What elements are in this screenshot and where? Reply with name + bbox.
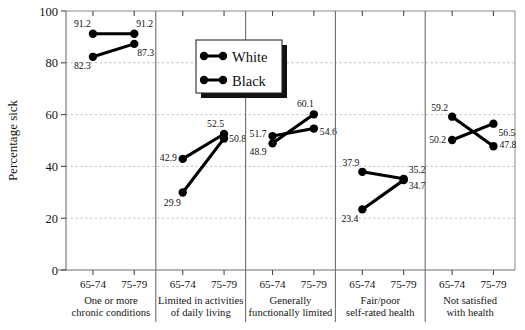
y-tick-label-100: 100 <box>39 5 58 19</box>
series-line-white-3 <box>362 172 403 179</box>
series-line-black-0 <box>93 44 134 57</box>
x-tick-label-3-1: 75-79 <box>391 278 418 290</box>
data-label-white-3-1: 35.2 <box>409 164 426 175</box>
data-label-white-1-0: 42.9 <box>160 152 177 163</box>
y-tick-label-60: 60 <box>46 108 59 122</box>
data-label-black-3-1: 34.7 <box>409 180 426 191</box>
series-point-black-1-0 <box>179 188 187 196</box>
legend: WhiteBlack <box>196 40 287 98</box>
legend-label-white: White <box>232 49 267 65</box>
data-label-white-2-1: 54.6 <box>320 126 337 137</box>
x-tick-label-0-0: 65-74 <box>80 278 107 290</box>
data-label-black-1-1: 50.8 <box>229 133 246 144</box>
panel-self-rated-health: 65-7475-79Fair/poorself-rated health37.9… <box>335 11 425 322</box>
series-point-white-3-0 <box>358 168 366 176</box>
series-point-white-0-1 <box>130 30 138 38</box>
x-tick-label-2-0: 65-74 <box>259 278 286 290</box>
panel-caption-line1-2: Generally <box>270 295 312 306</box>
data-label-black-2-1: 60.1 <box>297 98 314 109</box>
y-axis-ticks: 020406080100 <box>39 5 66 278</box>
panel-caption-line2-3: self-rated health <box>346 307 415 318</box>
series-line-black-3 <box>362 180 403 209</box>
legend-swatch-dot-left-0 <box>200 52 208 60</box>
series-point-black-3-0 <box>358 205 366 213</box>
panel-caption-line1-0: One or more <box>84 295 138 306</box>
y-tick-label-0: 0 <box>52 264 58 278</box>
x-tick-label-1-0: 65-74 <box>170 278 197 290</box>
data-label-black-2-0: 48.9 <box>250 146 267 157</box>
series-point-black-2-0 <box>268 139 276 147</box>
series-point-white-4-1 <box>489 142 497 150</box>
series-point-black-2-1 <box>310 110 318 118</box>
data-label-white-4-0: 59.2 <box>431 102 448 113</box>
multipanel-line-chart: 020406080100Percentage sick65-7475-79One… <box>0 0 525 330</box>
y-tick-label-20: 20 <box>46 212 59 226</box>
legend-swatch-dot-left-1 <box>200 76 208 84</box>
y-axis-title: Percentage sick <box>5 99 20 181</box>
data-label-black-4-0: 50.2 <box>429 134 446 145</box>
y-tick-label-40: 40 <box>46 160 59 174</box>
panel-caption-line1-1: Limited in activities <box>158 295 243 306</box>
data-label-black-3-0: 23.4 <box>341 213 358 224</box>
data-label-black-0-0: 82.3 <box>74 60 91 71</box>
series-line-black-4 <box>452 124 493 140</box>
data-label-white-0-0: 91.2 <box>74 18 91 29</box>
panel-caption-line1-4: Not satisfied <box>443 295 498 306</box>
legend-label-black: Black <box>232 73 267 89</box>
series-point-black-1-1 <box>220 134 228 142</box>
series-point-white-0-0 <box>89 30 97 38</box>
series-point-black-3-1 <box>399 176 407 184</box>
data-label-white-2-0: 51.7 <box>250 128 267 139</box>
panel-caption-line2-1: of daily living <box>171 307 232 318</box>
data-label-black-1-0: 29.9 <box>164 197 181 208</box>
data-label-black-0-1: 87.3 <box>137 47 154 58</box>
series-point-white-4-0 <box>448 112 456 120</box>
series-point-black-4-0 <box>448 136 456 144</box>
data-label-white-3-0: 37.9 <box>342 157 359 168</box>
series-point-white-1-0 <box>179 155 187 163</box>
x-tick-label-1-1: 75-79 <box>211 278 238 290</box>
panel-chronic-conditions: 65-7475-79One or morechronic conditions9… <box>72 11 155 318</box>
x-tick-label-4-1: 75-79 <box>480 278 507 290</box>
panel-caption-line2-4: with health <box>446 307 494 318</box>
data-label-white-0-1: 91.2 <box>136 18 153 29</box>
gridlines-group <box>66 63 515 218</box>
data-label-black-4-1: 56.5 <box>498 127 515 138</box>
plot-frame <box>66 11 515 270</box>
x-tick-label-0-1: 75-79 <box>121 278 148 290</box>
series-point-white-2-1 <box>310 124 318 132</box>
x-tick-label-3-0: 65-74 <box>349 278 376 290</box>
legend-swatch-dot-right-0 <box>219 52 227 60</box>
panel-caption-line2-0: chronic conditions <box>72 307 151 318</box>
panel-caption-line2-2: functionally limited <box>249 307 334 318</box>
chart-figure: 020406080100Percentage sick65-7475-79One… <box>0 0 525 330</box>
legend-swatch-dot-right-1 <box>219 76 227 84</box>
x-tick-label-2-1: 75-79 <box>301 278 328 290</box>
panel-caption-line1-3: Fair/poor <box>361 295 401 306</box>
data-label-white-1-1: 52.5 <box>207 118 224 129</box>
data-label-white-4-1: 47.8 <box>499 139 516 150</box>
x-tick-label-4-0: 65-74 <box>439 278 466 290</box>
series-point-black-4-1 <box>489 119 497 127</box>
series-point-white-2-0 <box>268 132 276 140</box>
y-tick-label-80: 80 <box>46 56 59 70</box>
